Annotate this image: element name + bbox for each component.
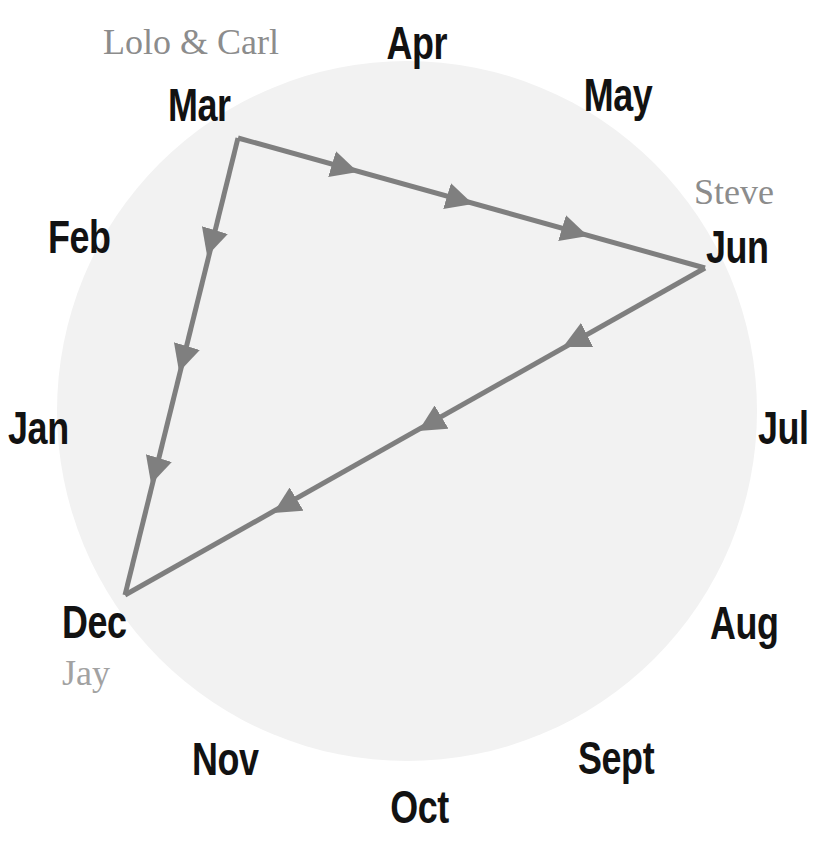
month-label-mar[interactable]: Mar [168,82,231,128]
diagram-page: Jan Feb Mar Apr May Jun Jul Aug Sept Oct… [0,0,816,849]
month-label-jun[interactable]: Jun [706,224,769,270]
edge-mar-dec-arrow-1 [211,233,214,243]
edge-mar-dec-arrow-2 [183,349,186,359]
month-label-aug[interactable]: Aug [710,600,779,646]
edge-mar-jun-arrow-1 [335,165,345,168]
month-label-may[interactable]: May [584,72,653,118]
month-label-apr[interactable]: Apr [387,20,448,66]
person-label-lolo-and-carl[interactable]: Lolo & Carl [103,24,279,60]
person-label-steve[interactable]: Steve [694,174,774,210]
month-label-jul[interactable]: Jul [758,405,809,451]
month-label-oct[interactable]: Oct [390,784,449,830]
month-label-sept[interactable]: Sept [578,735,654,781]
cycle-diagram [0,0,816,849]
month-label-dec[interactable]: Dec [62,599,127,645]
edge-mar-jun-arrow-2 [450,197,460,200]
edge-mar-jun-arrow-3 [565,229,575,232]
edge-mar-dec-arrow-3 [155,461,158,471]
month-label-feb[interactable]: Feb [48,214,111,260]
person-label-jay[interactable]: Jay [62,655,110,691]
month-disc [57,61,757,761]
month-label-nov[interactable]: Nov [192,736,259,782]
month-label-jan[interactable]: Jan [8,405,69,451]
